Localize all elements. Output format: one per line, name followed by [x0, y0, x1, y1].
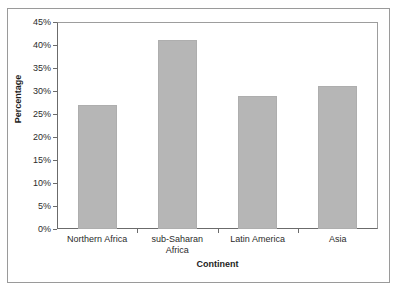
x-axis-tick-mark — [298, 229, 299, 233]
y-axis-tick-label: 10% — [5, 179, 51, 188]
x-axis-tick-label: sub-Saharan Africa — [137, 234, 217, 256]
y-axis-tick-label: 30% — [5, 87, 51, 96]
y-axis-tick-label: 5% — [5, 202, 51, 211]
y-axis-tick-label: 15% — [5, 156, 51, 165]
x-axis-tick-mark — [137, 229, 138, 233]
y-axis-tick-label: 0% — [5, 225, 51, 234]
bar-chart-figure: 0%5%10%15%20%25%30%35%40%45% Northern Af… — [0, 0, 403, 291]
y-axis-title: Percentage — [13, 59, 23, 139]
y-axis-tick-label: 20% — [5, 133, 51, 142]
y-axis-tick-label: 35% — [5, 64, 51, 73]
y-axis-tick-label: 45% — [5, 18, 51, 27]
bar — [158, 40, 197, 229]
bar-series — [57, 22, 378, 229]
y-axis-tick-label: 25% — [5, 110, 51, 119]
bar — [238, 96, 277, 229]
x-axis-tick-mark — [218, 229, 219, 233]
x-axis-tick-label: Asia — [298, 234, 378, 245]
x-axis-tick-label: Northern Africa — [57, 234, 137, 245]
bar — [78, 105, 117, 229]
y-axis-tick-label: 40% — [5, 41, 51, 50]
bar — [318, 86, 357, 229]
x-axis-title: Continent — [57, 259, 378, 269]
x-axis-tick-label: Latin America — [218, 234, 298, 245]
